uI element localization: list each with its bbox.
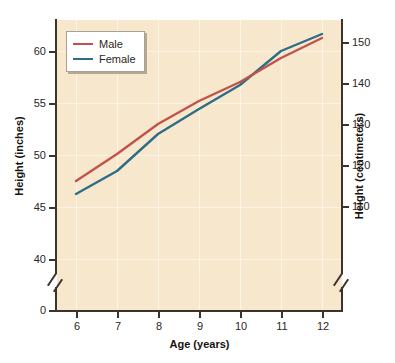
x-tick-11 — [281, 312, 283, 318]
legend-label-female: Female — [99, 53, 136, 65]
x-tick-8 — [158, 312, 160, 318]
x-tick-label-8: 8 — [147, 320, 171, 332]
legend-item-male: Male — [73, 36, 136, 51]
series-lines — [0, 0, 395, 363]
y-tick-label-right-150: 150 — [352, 36, 382, 48]
y-tick-right-150 — [343, 42, 349, 44]
y-tick-label-left-40: 40 — [18, 253, 46, 265]
x-tick-label-9: 9 — [188, 320, 212, 332]
x-tick-6 — [76, 312, 78, 318]
y-tick-right-130 — [343, 124, 349, 126]
y-tick-left-0 — [49, 310, 55, 312]
y-tick-label-right-140: 140 — [352, 77, 382, 89]
y-tick-left-45 — [49, 207, 55, 209]
x-tick-label-11: 11 — [270, 320, 294, 332]
x-tick-7 — [117, 312, 119, 318]
y-tick-right-120 — [343, 165, 349, 167]
legend-swatch-female — [73, 58, 93, 60]
x-tick-12 — [322, 312, 324, 318]
y-tick-left-50 — [49, 155, 55, 157]
y-tick-right-110 — [343, 206, 349, 208]
y-tick-left-40 — [49, 259, 55, 261]
y-tick-label-left-0: 0 — [18, 304, 46, 316]
legend: Male Female — [66, 31, 145, 72]
height-vs-age-line-chart: 0 40 45 50 55 60 110 120 130 140 150 6 7… — [0, 0, 395, 363]
x-tick-9 — [199, 312, 201, 318]
legend-label-male: Male — [99, 38, 123, 50]
y-axis-left-title: Height (inches) — [13, 96, 25, 216]
x-tick-label-6: 6 — [65, 320, 89, 332]
y-tick-label-left-60: 60 — [18, 45, 46, 57]
legend-swatch-male — [73, 43, 93, 45]
y-axis-right-title: Height (centimeters) — [353, 96, 365, 236]
legend-item-female: Female — [73, 51, 136, 66]
y-tick-left-60 — [49, 51, 55, 53]
x-tick-label-12: 12 — [311, 320, 335, 332]
y-tick-right-140 — [343, 83, 349, 85]
x-axis-title: Age (years) — [57, 338, 342, 350]
x-tick-10 — [240, 312, 242, 318]
y-tick-left-55 — [49, 103, 55, 105]
x-tick-label-7: 7 — [106, 320, 130, 332]
x-tick-label-10: 10 — [229, 320, 253, 332]
